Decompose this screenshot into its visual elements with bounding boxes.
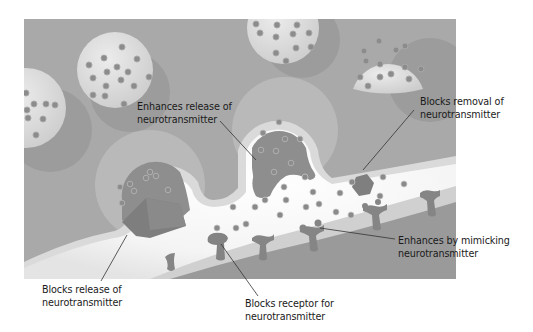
label-line: neurotransmitter [137, 114, 232, 127]
label-line: Enhances release of [137, 101, 232, 114]
label-line: Enhances by mimicking [398, 235, 510, 248]
label-line: neurotransmitter [398, 248, 510, 261]
label-blocks-receptor: Blocks receptor for neurotransmitter [245, 298, 334, 323]
label-enhances-mimicking: Enhances by mimicking neurotransmitter [398, 235, 510, 260]
label-blocks-removal: Blocks removal of neurotransmitter [420, 96, 504, 121]
label-line: neurotransmitter [42, 297, 122, 310]
label-line: Blocks removal of [420, 96, 504, 109]
label-enhances-release: Enhances release of neurotransmitter [137, 101, 232, 126]
label-line: neurotransmitter [420, 109, 504, 122]
label-line: Blocks receptor for [245, 298, 334, 311]
label-blocks-release: Blocks release of neurotransmitter [42, 284, 122, 309]
synapse-diagram [0, 0, 533, 332]
label-line: Blocks release of [42, 284, 122, 297]
vesicle [77, 32, 153, 108]
label-line: neurotransmitter [245, 311, 334, 324]
